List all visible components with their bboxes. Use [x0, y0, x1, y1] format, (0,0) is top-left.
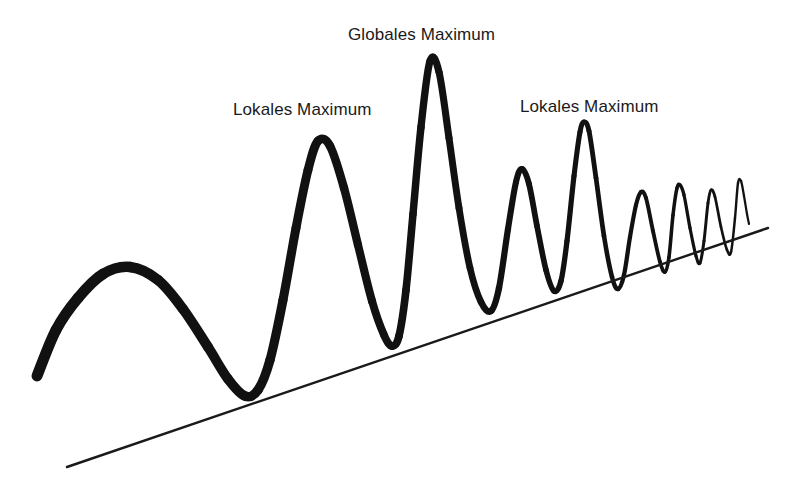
figure-canvas: Globales Maximum Lokales Maximum Lokales… — [0, 0, 794, 502]
annotation-lokales-maximum-right: Lokales Maximum — [520, 97, 659, 116]
oscillation-diagram — [0, 0, 794, 502]
plot-background — [0, 0, 794, 502]
annotation-lokales-maximum-left: Lokales Maximum — [233, 100, 372, 119]
annotation-globales-maximum: Globales Maximum — [348, 25, 495, 44]
